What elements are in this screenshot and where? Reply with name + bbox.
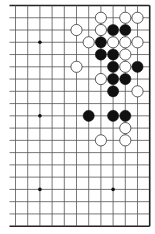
black-stone[interactable] bbox=[120, 24, 131, 35]
white-stone[interactable] bbox=[120, 135, 131, 146]
white-stone[interactable] bbox=[120, 49, 131, 60]
black-stone[interactable] bbox=[132, 61, 143, 72]
black-stone[interactable] bbox=[83, 110, 94, 121]
white-stone[interactable] bbox=[132, 12, 143, 23]
white-stone[interactable] bbox=[95, 12, 106, 23]
white-stone[interactable] bbox=[132, 37, 143, 48]
black-stone[interactable] bbox=[108, 73, 119, 84]
white-stone[interactable] bbox=[120, 37, 131, 48]
white-stone[interactable] bbox=[95, 24, 106, 35]
star-point bbox=[38, 114, 42, 118]
go-board bbox=[0, 0, 155, 234]
black-stone[interactable] bbox=[108, 61, 119, 72]
star-point bbox=[38, 40, 42, 44]
black-stone[interactable] bbox=[108, 24, 119, 35]
black-stone[interactable] bbox=[95, 49, 106, 60]
black-stone[interactable] bbox=[108, 110, 119, 121]
white-stone[interactable] bbox=[95, 73, 106, 84]
white-stone[interactable] bbox=[120, 61, 131, 72]
star-point bbox=[38, 188, 42, 192]
white-stone[interactable] bbox=[108, 37, 119, 48]
star-point bbox=[111, 188, 115, 192]
black-stone[interactable] bbox=[108, 86, 119, 97]
white-stone[interactable] bbox=[71, 24, 82, 35]
white-stone[interactable] bbox=[120, 12, 131, 23]
white-stone[interactable] bbox=[120, 123, 131, 134]
white-stone[interactable] bbox=[71, 61, 82, 72]
black-stone[interactable] bbox=[95, 37, 106, 48]
white-stone[interactable] bbox=[95, 135, 106, 146]
black-stone[interactable] bbox=[120, 110, 131, 121]
black-stone[interactable] bbox=[108, 49, 119, 60]
white-stone[interactable] bbox=[83, 37, 94, 48]
black-stone[interactable] bbox=[120, 73, 131, 84]
white-stone[interactable] bbox=[132, 86, 143, 97]
